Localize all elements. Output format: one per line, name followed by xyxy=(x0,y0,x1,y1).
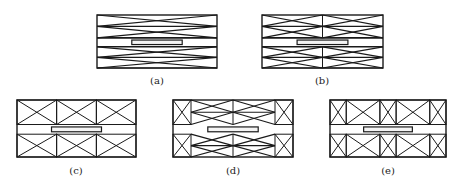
panel-d xyxy=(173,100,293,157)
panel-label-e: (e) xyxy=(381,165,395,176)
panel-label-d: (d) xyxy=(226,165,240,176)
diagram-canvas xyxy=(0,0,456,190)
panel-a xyxy=(97,15,217,68)
panel-label-b: (b) xyxy=(315,75,329,86)
panel-c xyxy=(17,100,136,157)
panel-e xyxy=(330,100,446,157)
panel-label-c: (c) xyxy=(69,165,82,176)
panel-label-a: (a) xyxy=(150,75,164,86)
panel-b xyxy=(262,15,383,68)
